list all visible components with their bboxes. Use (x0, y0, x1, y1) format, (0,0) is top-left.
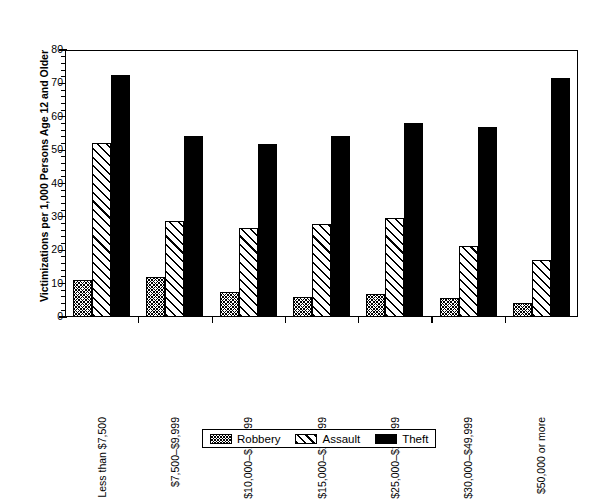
bar-robbery (293, 297, 312, 317)
legend-label: Theft (402, 433, 428, 445)
legend-item-assault[interactable]: Assault (295, 433, 360, 445)
bar-assault (165, 221, 184, 317)
bar-theft (111, 75, 130, 317)
x-axis-label: $30,000–$49,999 (462, 417, 475, 503)
x-axis-label: $50,000 or more (535, 417, 548, 503)
chart-legend: RobberyAssaultTheft (202, 429, 436, 448)
x-axis-label: Less than $7,500 (96, 417, 109, 503)
y-tick-label: 20 (0, 243, 63, 255)
x-axis-label: $7,500–$9,999 (169, 417, 182, 503)
cropped-header-strip (38, 0, 558, 9)
bar-robbery (513, 303, 532, 317)
y-tick-label: 30 (0, 210, 63, 222)
bar-theft (404, 123, 423, 317)
legend-swatch-robbery-icon (210, 434, 232, 444)
bar-group (138, 50, 211, 317)
y-tick-label: 60 (0, 110, 63, 122)
bar-theft (331, 136, 350, 317)
bar-group (431, 50, 504, 317)
legend-label: Robbery (237, 433, 280, 445)
bar-groups (65, 50, 578, 317)
bar-robbery (146, 277, 165, 317)
bar-theft (258, 144, 277, 317)
bar-group (285, 50, 358, 317)
y-tick-label: 40 (0, 177, 63, 189)
bar-group (65, 50, 138, 317)
bar-robbery (440, 298, 459, 317)
y-tick-label: 10 (0, 277, 63, 289)
y-tick-label: 50 (0, 143, 63, 155)
bar-group (505, 50, 578, 317)
bar-group (212, 50, 285, 317)
x-axis-labels: Less than $7,500$7,500–$9,999$10,000–$14… (65, 322, 578, 417)
bar-theft (478, 127, 497, 317)
bar-theft (184, 136, 203, 317)
legend-swatch-theft-icon (375, 434, 397, 444)
bar-robbery (366, 294, 385, 317)
bar-assault (92, 143, 111, 317)
legend-swatch-assault-icon (295, 434, 317, 444)
bar-assault (312, 224, 331, 317)
bar-robbery (73, 280, 92, 317)
bar-assault (532, 260, 551, 317)
bar-assault (385, 218, 404, 317)
bar-theft (551, 78, 570, 317)
bar-group (358, 50, 431, 317)
y-tick-label: 80 (0, 43, 63, 55)
legend-item-theft[interactable]: Theft (375, 433, 428, 445)
bar-assault (459, 246, 478, 317)
legend-label: Assault (322, 433, 360, 445)
legend-item-robbery[interactable]: Robbery (210, 433, 280, 445)
y-tick-label: 0 (0, 310, 63, 322)
y-tick-label: 70 (0, 76, 63, 88)
bar-robbery (220, 292, 239, 317)
bar-assault (239, 228, 258, 317)
